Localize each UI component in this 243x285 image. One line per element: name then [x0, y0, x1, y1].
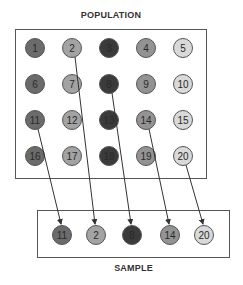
population-member: 19: [136, 146, 156, 166]
population-member: 15: [173, 110, 193, 130]
population-member: 8: [99, 74, 119, 94]
population-member: 12: [62, 110, 82, 130]
population-member: 10: [173, 74, 193, 94]
population-title: POPULATION: [0, 10, 222, 20]
population-member: 11: [25, 110, 45, 130]
population-member: 14: [136, 110, 156, 130]
population-member: 17: [62, 146, 82, 166]
population-member: 5: [173, 38, 193, 58]
population-member: 3: [99, 38, 119, 58]
population-member: 16: [25, 146, 45, 166]
sample-member: 2: [86, 225, 106, 245]
sample-member: 20: [194, 225, 214, 245]
sample-member: 11: [52, 225, 72, 245]
sample-title: SAMPLE: [37, 263, 230, 273]
population-member: 6: [25, 74, 45, 94]
population-member: 4: [136, 38, 156, 58]
population-member: 7: [62, 74, 82, 94]
population-member: 2: [62, 38, 82, 58]
population-member: 18: [99, 146, 119, 166]
population-member: 13: [99, 110, 119, 130]
population-member: 20: [173, 146, 193, 166]
population-member: 9: [136, 74, 156, 94]
sample-member: 14: [160, 225, 180, 245]
population-member: 1: [25, 38, 45, 58]
sample-member: 8: [122, 225, 142, 245]
